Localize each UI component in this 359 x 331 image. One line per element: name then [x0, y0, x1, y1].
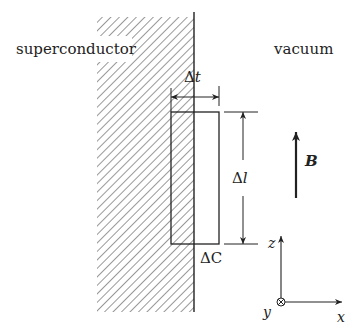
superconductor-label: superconductor	[16, 40, 137, 58]
coordinate-axes	[277, 236, 342, 306]
delta-l-label: Δl	[232, 169, 248, 187]
x-axis-label: x	[337, 309, 345, 325]
contour-label: ΔC	[200, 249, 222, 267]
y-axis-label: y	[262, 304, 272, 320]
field-label: B	[304, 152, 318, 170]
vacuum-label: vacuum	[273, 40, 333, 58]
y-axis-into-page-icon	[277, 298, 285, 306]
z-axis-label: z	[267, 235, 276, 251]
diagram-canvas: superconductor vacuum Δt Δl ΔC B z x y	[0, 0, 359, 331]
delta-t-label: Δt	[184, 68, 202, 86]
